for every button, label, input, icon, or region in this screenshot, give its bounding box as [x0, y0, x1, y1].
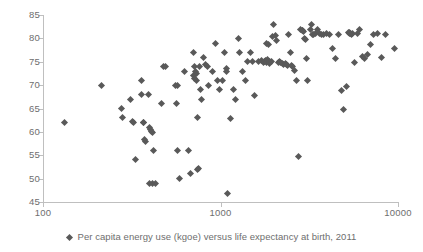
data-point	[118, 105, 125, 112]
data-point	[304, 77, 311, 84]
plot-area	[43, 15, 398, 202]
data-point	[303, 54, 310, 61]
data-point-layer	[43, 15, 398, 202]
data-point	[293, 77, 300, 84]
data-point	[138, 77, 145, 84]
data-point	[189, 49, 196, 56]
x-axis-tick-label: 10000	[374, 207, 422, 218]
data-point	[98, 82, 105, 89]
data-point	[174, 147, 181, 154]
x-axis-tick-label: 100	[19, 207, 67, 218]
y-axis-tick-label: 70	[10, 80, 40, 90]
data-point	[295, 153, 302, 160]
data-point	[181, 68, 188, 75]
data-point	[390, 45, 397, 52]
data-point	[218, 77, 225, 84]
diamond-marker-icon	[66, 233, 73, 240]
y-axis-tick-label: 85	[10, 10, 40, 20]
data-point	[127, 96, 134, 103]
y-axis-tick-label: 60	[10, 127, 40, 137]
data-point	[193, 77, 200, 84]
data-point	[221, 49, 228, 56]
scatter-chart: 455055606570758085 100100010000 Per capi…	[0, 0, 423, 252]
data-point	[239, 68, 246, 75]
data-point	[230, 86, 237, 93]
data-point	[232, 96, 239, 103]
data-point	[382, 31, 389, 38]
data-point	[145, 91, 152, 98]
y-axis-tick-label: 50	[10, 174, 40, 184]
data-point	[235, 35, 242, 42]
data-point	[150, 147, 157, 154]
chart-legend: Per capita energy use (kgoe) versus life…	[0, 231, 423, 243]
data-point	[251, 92, 258, 99]
data-point	[216, 86, 223, 93]
data-point	[204, 63, 211, 70]
data-point	[198, 96, 205, 103]
y-axis-tick-label: 75	[10, 57, 40, 67]
data-point	[61, 119, 68, 126]
data-point	[187, 170, 194, 177]
data-point	[378, 54, 385, 61]
legend-label: Per capita energy use (kgoe) versus life…	[78, 231, 357, 243]
data-point	[273, 37, 280, 44]
data-point	[335, 31, 342, 38]
y-axis-tick-label: 55	[10, 150, 40, 160]
data-point	[119, 114, 126, 121]
data-point	[227, 115, 234, 122]
data-point	[149, 129, 156, 136]
data-point	[205, 82, 212, 89]
data-point	[194, 114, 201, 121]
data-point	[176, 175, 183, 182]
data-point	[200, 54, 207, 61]
data-point	[340, 106, 347, 113]
data-point	[367, 41, 374, 48]
data-point	[185, 147, 192, 154]
data-point	[302, 36, 309, 43]
data-point	[212, 40, 219, 47]
data-point	[291, 67, 298, 74]
data-point	[197, 86, 204, 93]
data-point	[329, 45, 336, 52]
data-point	[351, 59, 358, 66]
data-point	[174, 82, 181, 89]
data-point	[242, 77, 249, 84]
data-point	[158, 100, 165, 107]
y-axis-tick-label: 80	[10, 33, 40, 43]
data-point	[224, 190, 231, 197]
y-axis-tick-label: 45	[10, 197, 40, 207]
data-point	[131, 156, 138, 163]
data-point	[236, 49, 243, 56]
data-point	[356, 25, 363, 32]
y-axis-tick-label: 65	[10, 104, 40, 114]
data-point	[287, 49, 294, 56]
data-point	[285, 31, 292, 38]
data-point	[130, 119, 137, 126]
data-point	[173, 100, 180, 107]
data-point	[247, 49, 254, 56]
data-point	[270, 21, 277, 28]
data-point	[332, 54, 339, 61]
x-axis-tick-label: 1000	[197, 207, 245, 218]
data-point	[209, 68, 216, 75]
